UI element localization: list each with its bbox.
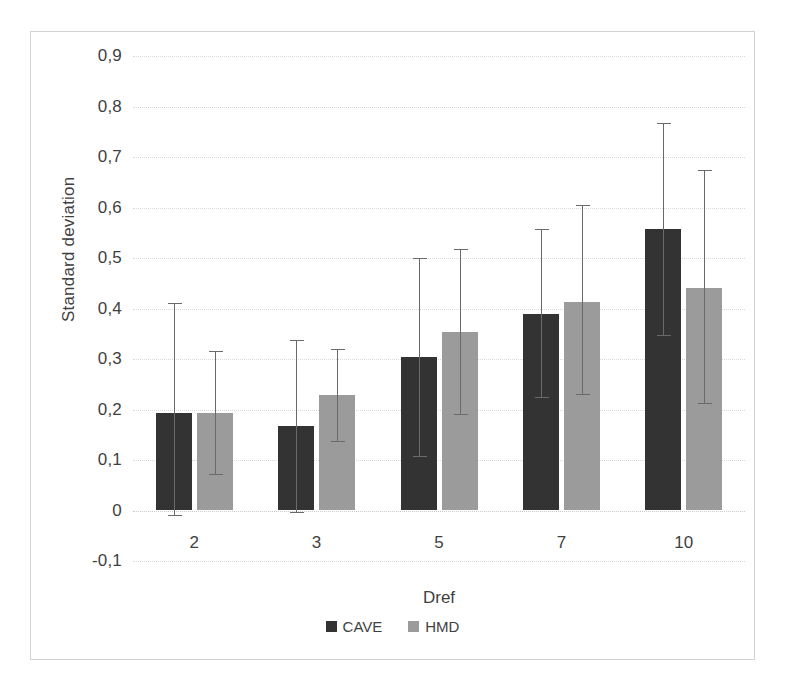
gridline [133,56,745,57]
error-bar-cap-bottom [576,394,590,395]
error-bar-cap-bottom [209,474,223,475]
error-bar-cap-top [535,229,549,230]
error-bar-cap-top [576,205,590,206]
y-axis-tick-label: 0,2 [98,400,122,420]
error-bar-hmd-10 [704,170,705,405]
error-bar-cave-2 [174,303,175,515]
y-axis-tick-label: 0,9 [98,46,122,66]
error-bar-cap-top [454,249,468,250]
error-bar-hmd-3 [337,349,338,442]
error-bar-cave-5 [419,258,420,457]
y-axis-tick-label: 0,4 [98,299,122,319]
y-axis-tick-label: 0,6 [98,198,122,218]
x-axis-tick-label-2: 2 [189,533,198,553]
legend-label: HMD [425,618,459,635]
x-axis-tick-label-5: 5 [434,533,443,553]
error-bar-cap-bottom [168,515,182,516]
x-axis-tick-label-10: 10 [674,533,693,553]
error-bar-cave-3 [296,340,297,513]
error-bar-cap-top [331,349,345,350]
x-axis-tick-label-3: 3 [312,533,321,553]
error-bar-cave-10 [663,123,664,337]
gridline [133,157,745,158]
error-bar-hmd-7 [582,205,583,395]
y-axis-tick-label: 0 [112,501,122,521]
y-axis-tick-label: 0,3 [98,349,122,369]
y-axis-tick-label: 0,5 [98,248,122,268]
chart-legend: CAVEHMD [31,618,754,635]
x-axis-tick-label-7: 7 [557,533,566,553]
legend-swatch-icon [326,621,337,632]
y-axis-tick-label: 0,7 [98,147,122,167]
y-axis-tick-label: 0,8 [98,97,122,117]
x-axis-title: Dref [133,588,745,608]
y-axis-tick-label: 0,1 [98,450,122,470]
error-bar-cap-bottom [331,441,345,442]
error-bar-hmd-2 [215,351,216,475]
error-bar-cap-bottom [413,456,427,457]
error-bar-hmd-5 [460,249,461,414]
error-bar-cap-top [657,123,671,124]
error-bar-cap-top [698,170,712,171]
error-bar-cap-top [168,303,182,304]
legend-swatch-icon [408,621,419,632]
error-bar-cap-bottom [657,335,671,336]
chart-frame: Standard deviation Dref 0,90,80,70,60,50… [30,31,755,660]
gridline [133,561,745,562]
error-bar-cave-7 [541,229,542,398]
error-bar-cap-bottom [454,414,468,415]
error-bar-cap-bottom [290,512,304,513]
legend-entry-cave[interactable]: CAVE [326,618,383,635]
plot-area: 0,90,80,70,60,50,40,30,20,10-0,1 235710 [133,56,745,561]
y-axis-title: Standard deviation [59,177,79,322]
gridline [133,107,745,108]
error-bar-cap-top [413,258,427,259]
error-bar-cap-top [209,351,223,352]
error-bar-cap-bottom [698,403,712,404]
y-axis-tick-label: -0,1 [92,551,122,571]
error-bar-cap-top [290,340,304,341]
error-bar-cap-bottom [535,397,549,398]
legend-entry-hmd[interactable]: HMD [408,618,459,635]
legend-label: CAVE [343,618,383,635]
gridline [133,511,745,512]
gridline [133,208,745,209]
